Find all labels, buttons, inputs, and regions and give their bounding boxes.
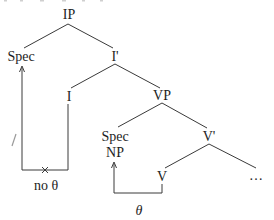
syntax-tree-diagram: IP Spec I' I VP Spec NP V' V … no θ θ xyxy=(0,0,274,220)
tree-edges xyxy=(24,24,256,168)
node-v: V xyxy=(157,169,167,184)
arrow-path-i-to-spec xyxy=(22,68,68,170)
node-v-bar: V' xyxy=(203,129,216,144)
arrow-path-v-to-spec-np xyxy=(114,164,162,193)
node-spec-vp-np: NP xyxy=(106,145,124,160)
label-no-theta: no θ xyxy=(34,178,59,193)
node-v-complement-ellipsis: … xyxy=(249,168,263,183)
tree-nodes: IP Spec I' I VP Spec NP V' V … xyxy=(7,7,263,184)
edge-vbar-ellipsis xyxy=(209,144,256,168)
node-vp: VP xyxy=(153,88,171,103)
edge-vp-vbar xyxy=(162,103,207,128)
label-no-theta-text: no θ xyxy=(34,178,59,193)
node-spec-ip: Spec xyxy=(7,49,34,64)
movement-arrow-theta: θ xyxy=(112,162,163,218)
edge-vbar-v xyxy=(165,144,209,168)
node-ip: IP xyxy=(63,7,76,22)
node-spec-vp: Spec xyxy=(101,129,128,144)
stray-slash-icon xyxy=(12,134,16,146)
stray-slash-mark xyxy=(12,134,16,146)
movement-arrow-no-theta: no θ xyxy=(20,66,69,193)
edge-ip-ibar xyxy=(68,24,113,48)
cropped-heading-fragment xyxy=(4,0,103,2)
edge-ibar-i xyxy=(71,64,115,88)
edge-ibar-vp xyxy=(115,64,160,88)
node-i-bar: I' xyxy=(111,49,118,64)
label-theta: θ xyxy=(136,203,143,218)
edge-vp-spec xyxy=(118,103,162,127)
node-i: I xyxy=(67,89,72,104)
edge-ip-spec xyxy=(24,24,68,48)
